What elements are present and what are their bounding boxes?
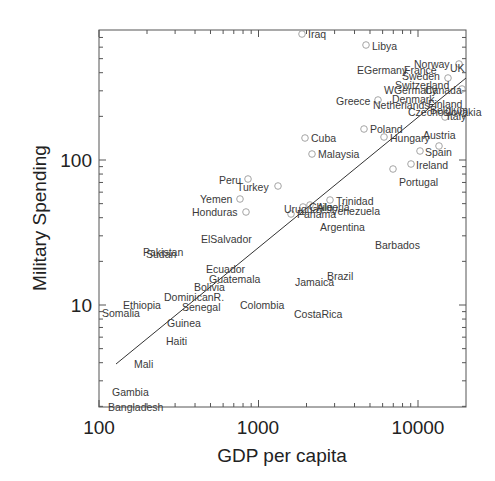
point-label: Honduras xyxy=(192,206,238,218)
point-label: Malaysia xyxy=(318,148,360,160)
x-tick-labels: 100100010000 xyxy=(83,417,444,438)
point-label: Libya xyxy=(372,40,397,52)
point-label: Cuba xyxy=(311,132,336,144)
point-label: Senegal xyxy=(182,301,221,313)
point-label: Iraq xyxy=(308,28,326,40)
point-marker xyxy=(299,31,306,38)
x-tick-label: 10000 xyxy=(392,417,445,438)
y-axis-title: Military Spending xyxy=(29,145,50,291)
point-label: Ireland xyxy=(416,159,448,171)
point-label: CostaRica xyxy=(294,308,343,320)
point-label: Portugal xyxy=(399,176,438,188)
point-label: Spain xyxy=(425,146,452,158)
point-marker xyxy=(408,161,415,168)
scatter-chart: IraqLibyaEGermanyNorwayFranceUKSwedenSwi… xyxy=(0,0,495,481)
point-marker xyxy=(243,209,250,216)
point-label: Gambia xyxy=(112,386,149,398)
point-label: Italy xyxy=(447,110,467,122)
point-marker xyxy=(390,166,397,173)
point-label: Colombia xyxy=(240,299,285,311)
point-marker xyxy=(302,135,309,142)
point-label: Argentina xyxy=(320,221,365,233)
point-marker xyxy=(309,151,316,158)
point-label: EGermany xyxy=(357,64,408,76)
y-tick-label: 100 xyxy=(60,150,92,171)
x-tick-label: 1000 xyxy=(237,417,279,438)
point-label: Sudan xyxy=(146,248,177,260)
x-tick-label: 100 xyxy=(83,417,115,438)
point-label: Bangladesh xyxy=(108,401,164,413)
point-label: Venezuela xyxy=(331,205,380,217)
y-tick-label: 10 xyxy=(71,295,92,316)
x-axis-title: GDP per capita xyxy=(217,445,347,466)
point-label: Mali xyxy=(134,358,153,370)
point-label: Guinea xyxy=(167,317,201,329)
point-marker xyxy=(361,126,368,133)
point-label: Barbados xyxy=(375,239,420,251)
point-label: Austria xyxy=(423,129,456,141)
point-label: Haiti xyxy=(166,335,187,347)
point-label: Greece xyxy=(336,95,371,107)
y-tick-labels: 10010 xyxy=(60,150,92,316)
point-marker xyxy=(237,196,244,203)
point-marker xyxy=(363,42,370,49)
point-marker xyxy=(417,148,424,155)
point-label: UK xyxy=(450,62,465,74)
point-label: Jamaica xyxy=(295,276,334,288)
point-label: ElSalvador xyxy=(201,233,252,245)
point-label: Yemen xyxy=(200,193,232,205)
point-label: Turkey xyxy=(237,181,269,193)
point-label: Somalia xyxy=(102,307,140,319)
point-marker xyxy=(275,183,282,190)
